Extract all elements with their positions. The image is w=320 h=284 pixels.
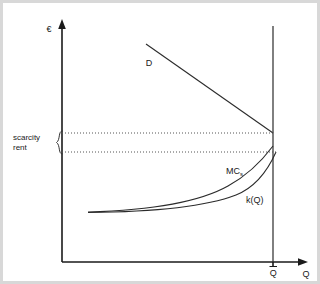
- diagram-canvas: € Q Q D MC s k(Q) scarcity r: [0, 0, 320, 284]
- marginal-cost-sublabel: s: [240, 171, 243, 177]
- y-axis-label: €: [46, 24, 51, 34]
- axis-group: [58, 19, 308, 266]
- y-axis-arrowhead: [58, 19, 66, 29]
- scarcity-rent-label-line2: rent: [13, 143, 28, 152]
- x-axis-label: Q: [302, 269, 309, 279]
- marginal-cost-label: MC: [226, 166, 240, 176]
- x-tick-label-qbar: Q: [270, 268, 277, 278]
- demand-curve-label: D: [146, 58, 153, 68]
- x-tick-label-group: Q: [270, 267, 278, 279]
- scarcity-rent-figure: € Q Q D MC s k(Q) scarcity r: [0, 0, 320, 284]
- x-axis-arrowhead: [298, 258, 308, 266]
- extraction-cost-label: k(Q): [246, 195, 264, 205]
- demand-curve: [146, 44, 273, 133]
- scarcity-rent-label-line1: scarcity: [13, 133, 40, 142]
- marginal-cost-label-group: MC s: [226, 166, 243, 177]
